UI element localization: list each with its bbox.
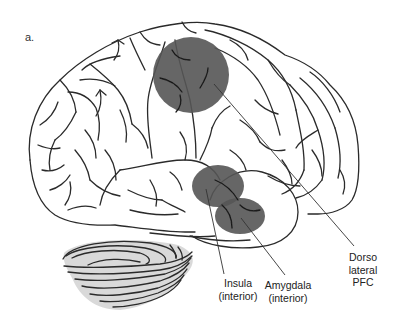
panel-label: a. bbox=[25, 31, 34, 43]
dlpfc-label-line3: PFC bbox=[345, 276, 381, 289]
dlpfc-label-line1: Dorso bbox=[345, 251, 381, 264]
amygdala-label: Amygdala (interior) bbox=[260, 279, 316, 304]
insula-label-line1: Insula bbox=[213, 277, 263, 290]
brain-diagram: a. Insula (interior) Amygdala (interior)… bbox=[0, 0, 397, 327]
dlpfc-region bbox=[153, 37, 229, 113]
dlpfc-label-line2: lateral bbox=[345, 264, 381, 277]
insula-label-line2: (interior) bbox=[213, 290, 263, 303]
amygdala-label-line1: Amygdala bbox=[260, 279, 316, 292]
brain-illustration bbox=[0, 0, 397, 327]
dlpfc-label: Dorso lateral PFC bbox=[345, 251, 381, 289]
insula-label: Insula (interior) bbox=[213, 277, 263, 302]
cerebellum bbox=[63, 240, 193, 310]
amygdala-label-line2: (interior) bbox=[260, 292, 316, 305]
amygdala-region bbox=[215, 198, 265, 234]
amygdala-leader bbox=[241, 218, 285, 275]
